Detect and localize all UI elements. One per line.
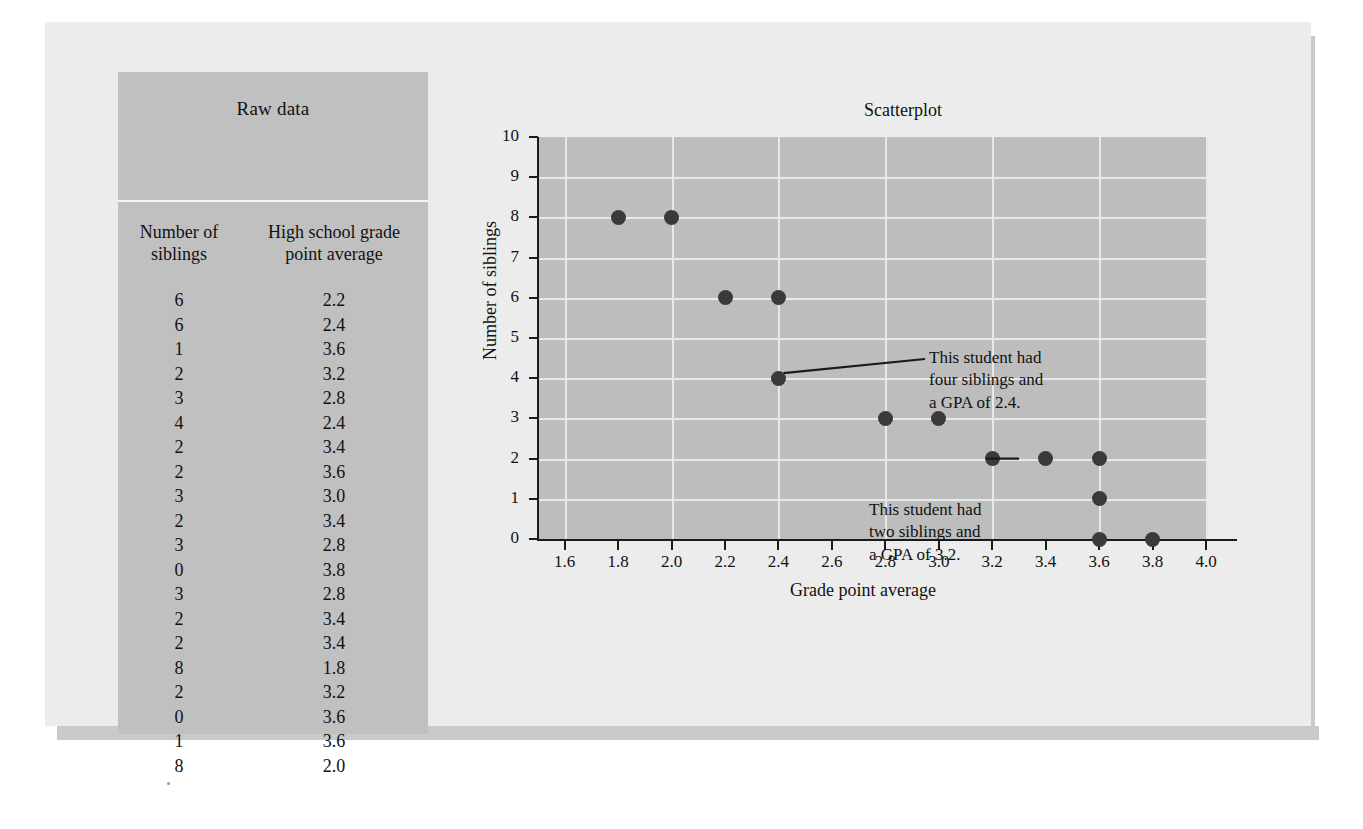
x-axis-tick: [1205, 541, 1207, 550]
x-axis-tick: [564, 541, 566, 550]
gridline-horizontal: [538, 258, 1206, 260]
cell-siblings: 6: [118, 288, 240, 312]
raw-data-title: Raw data: [118, 98, 428, 120]
x-axis-tick-label: 1.8: [596, 552, 640, 572]
x-axis-tick-label: 2.6: [810, 552, 854, 572]
x-axis-tick: [831, 541, 833, 550]
gridline-horizontal: [538, 338, 1206, 340]
table-row: 32.8: [118, 386, 428, 411]
y-axis-tick: [529, 176, 538, 178]
y-axis-tick: [529, 538, 538, 540]
cell-siblings: 2: [118, 680, 240, 704]
cell-siblings: 2: [118, 435, 240, 459]
cell-siblings: 1: [118, 337, 240, 361]
data-point: [1145, 532, 1160, 547]
table-row: 23.4: [118, 435, 428, 460]
table-header-row: Number of siblings High school grade poi…: [118, 222, 428, 266]
data-point: [771, 371, 786, 386]
cell-siblings: 8: [118, 656, 240, 680]
table-row: 23.2: [118, 362, 428, 387]
cell-gpa: 3.6: [240, 337, 428, 361]
gridline-horizontal: [538, 418, 1206, 420]
figure-card: Raw data Number of siblings High school …: [45, 22, 1311, 726]
cell-gpa: 3.6: [240, 460, 428, 484]
gridline-horizontal: [538, 378, 1206, 380]
cell-gpa: 3.2: [240, 680, 428, 704]
table-row: 32.8: [118, 582, 428, 607]
cell-gpa: 1.8: [240, 656, 428, 680]
x-axis-tick: [617, 541, 619, 550]
gridline-horizontal: [538, 217, 1206, 219]
data-point: [985, 451, 1000, 466]
raw-data-panel: Raw data Number of siblings High school …: [118, 72, 428, 734]
chart-title: Scatterplot: [463, 100, 1343, 121]
table-row: 13.6: [118, 729, 428, 754]
table-row: 03.6: [118, 705, 428, 730]
x-axis-tick: [991, 541, 993, 550]
cell-siblings: 0: [118, 558, 240, 582]
y-axis-tick: [529, 257, 538, 259]
table-divider: [118, 200, 428, 202]
y-axis-tick: [529, 337, 538, 339]
cell-siblings: 6: [118, 313, 240, 337]
cell-siblings: 8: [118, 754, 240, 778]
table-row: 42.4: [118, 411, 428, 436]
y-axis-tick-label: 0: [489, 528, 519, 548]
cell-siblings: 4: [118, 411, 240, 435]
cell-gpa: 2.8: [240, 533, 428, 557]
cell-siblings: 3: [118, 386, 240, 410]
cell-siblings: 2: [118, 362, 240, 386]
x-axis-tick: [724, 541, 726, 550]
column-header-siblings: Number of siblings: [118, 222, 240, 266]
x-axis-tick-label: 2.4: [756, 552, 800, 572]
x-axis-tick-label: 4.0: [1184, 552, 1228, 572]
cell-siblings: 3: [118, 484, 240, 508]
table-row: 03.8: [118, 558, 428, 583]
y-axis-tick-label: 10: [489, 126, 519, 146]
x-axis-tick-label: 2.0: [650, 552, 694, 572]
y-axis-title: Number of siblings: [480, 176, 501, 406]
cell-gpa: 2.4: [240, 411, 428, 435]
y-axis-tick: [529, 417, 538, 419]
y-axis-tick-label: 2: [489, 448, 519, 468]
cell-gpa: 2.8: [240, 386, 428, 410]
x-axis-tick: [671, 541, 673, 550]
column-header-siblings-line2: siblings: [118, 244, 240, 266]
column-header-gpa-line1: High school grade: [240, 222, 428, 244]
table-body: 62.262.413.623.232.842.423.423.633.023.4…: [118, 288, 428, 778]
y-axis-tick: [529, 136, 538, 138]
annotation-two-siblings: This student had two siblings and a GPA …: [869, 499, 981, 566]
cell-siblings: 2: [118, 460, 240, 484]
table-row: 23.2: [118, 680, 428, 705]
gridline-horizontal: [538, 177, 1206, 179]
table-row: 23.6: [118, 460, 428, 485]
y-axis-tick: [529, 377, 538, 379]
y-axis-tick-label: 1: [489, 488, 519, 508]
cell-siblings: 2: [118, 607, 240, 631]
table-row: 32.8: [118, 533, 428, 558]
table-row: 62.4: [118, 313, 428, 338]
table-row: 23.4: [118, 607, 428, 632]
data-point: [718, 290, 733, 305]
x-axis-tick: [777, 541, 779, 550]
x-axis-tick-label: 1.6: [543, 552, 587, 572]
data-point: [664, 210, 679, 225]
cell-gpa: 3.0: [240, 484, 428, 508]
cell-gpa: 2.4: [240, 313, 428, 337]
column-header-gpa-line2: point average: [240, 244, 428, 266]
column-header-gpa: High school grade point average: [240, 222, 428, 266]
table-row: 23.4: [118, 509, 428, 534]
x-axis-tick-label: 3.4: [1024, 552, 1068, 572]
data-point: [1092, 451, 1107, 466]
data-point: [611, 210, 626, 225]
page-speck: [167, 782, 170, 785]
cell-gpa: 2.0: [240, 754, 428, 778]
y-axis-tick-label: 3: [489, 407, 519, 427]
scatterplot: Scatterplot 0123456789101.61.82.02.22.42…: [463, 82, 1343, 602]
column-header-siblings-line1: Number of: [118, 222, 240, 244]
table-row: 13.6: [118, 337, 428, 362]
y-axis-tick: [529, 498, 538, 500]
data-point: [1092, 532, 1107, 547]
annotation-four-siblings: This student had four siblings and a GPA…: [929, 347, 1043, 414]
x-axis-title: Grade point average: [463, 580, 1263, 601]
